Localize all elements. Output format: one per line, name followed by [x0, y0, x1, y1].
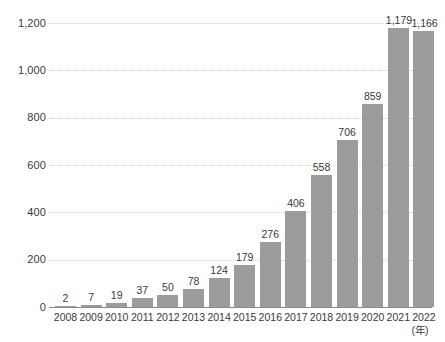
bar-group[interactable]: 406 — [283, 191, 308, 307]
bar[interactable] — [183, 289, 204, 307]
x-axis-tick-label: 2008 — [52, 311, 79, 323]
bar[interactable] — [311, 175, 332, 307]
bar[interactable] — [413, 31, 434, 307]
bar[interactable] — [337, 140, 358, 307]
bar[interactable] — [285, 211, 306, 307]
bar-value-label: 1,166 — [411, 18, 436, 29]
bar-group[interactable]: 1,179 — [386, 8, 411, 307]
bar-value-label: 37 — [130, 285, 155, 296]
x-axis-tick-label: 2018 — [308, 311, 335, 323]
x-axis-tick-label: 2010 — [103, 311, 130, 323]
bar-value-label: 1,179 — [386, 15, 411, 26]
bar[interactable] — [132, 298, 153, 307]
bar[interactable] — [362, 104, 383, 307]
bar-value-label: 7 — [79, 292, 104, 303]
bar-value-label: 276 — [258, 229, 283, 240]
bar-chart: 02004006008001,0001,200 2200872009192010… — [0, 0, 445, 342]
bar[interactable] — [260, 242, 281, 307]
bar-group[interactable]: 19 — [104, 283, 129, 307]
x-axis-tick-label: 2014 — [206, 311, 233, 323]
bar-group[interactable]: 37 — [130, 278, 155, 307]
bar-group[interactable]: 50 — [155, 275, 180, 307]
bar-group[interactable]: 179 — [232, 245, 257, 307]
x-axis-tick-label: 2021 — [385, 311, 412, 323]
bar[interactable] — [209, 278, 230, 307]
bar-group[interactable]: 78 — [181, 269, 206, 307]
bar-group[interactable]: 7 — [79, 285, 104, 307]
bar-group[interactable]: 558 — [309, 155, 334, 307]
bar-group[interactable]: 2 — [53, 286, 78, 307]
bar-value-label: 706 — [335, 127, 360, 138]
bar-group[interactable]: 276 — [258, 222, 283, 307]
bar-group[interactable]: 706 — [335, 120, 360, 307]
bar-value-label: 50 — [155, 282, 180, 293]
x-axis-unit-label: (年) — [398, 324, 442, 336]
bar-group[interactable]: 124 — [207, 258, 232, 307]
x-axis-tick-label: 2016 — [257, 311, 284, 323]
bar[interactable] — [55, 306, 76, 307]
x-axis-tick-label: 2017 — [282, 311, 309, 323]
bar-value-label: 406 — [283, 198, 308, 209]
bar-value-label: 78 — [181, 276, 206, 287]
bar-value-label: 558 — [309, 162, 334, 173]
bar[interactable] — [388, 28, 409, 307]
bars-layer: 2200872009192010372011502012782013124201… — [0, 0, 445, 342]
bar-group[interactable]: 1,166 — [411, 11, 436, 307]
x-axis-tick-label: 2020 — [359, 311, 386, 323]
bar-value-label: 859 — [360, 91, 385, 102]
bar-value-label: 19 — [104, 290, 129, 301]
bar[interactable] — [81, 305, 102, 307]
bar[interactable] — [234, 265, 255, 307]
bar-value-label: 179 — [232, 252, 257, 263]
bar-group[interactable]: 859 — [360, 84, 385, 307]
bar-value-label: 2 — [53, 293, 78, 304]
bar-value-label: 124 — [207, 265, 232, 276]
x-axis-tick-label: 2022 — [410, 311, 437, 323]
x-axis-tick-label: 2011 — [129, 311, 156, 323]
bar[interactable] — [157, 295, 178, 307]
x-axis-tick-label: 2013 — [180, 311, 207, 323]
bar[interactable] — [106, 303, 127, 307]
x-axis-tick-label: 2019 — [334, 311, 361, 323]
x-axis-tick-label: 2009 — [78, 311, 105, 323]
x-axis-tick-label: 2012 — [154, 311, 181, 323]
x-axis-tick-label: 2015 — [231, 311, 258, 323]
